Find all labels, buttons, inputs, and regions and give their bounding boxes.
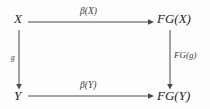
edge-label-top: β(X) — [80, 7, 97, 17]
node-top-left: X — [14, 12, 22, 25]
arrow-left — [16, 30, 22, 90]
edge-label-left: g — [11, 54, 15, 62]
commutative-diagram: X FG(X) Y FG(Y) β(X) g FG(g) β(Y) — [0, 0, 210, 109]
arrow-right — [167, 30, 173, 90]
edge-label-bottom: β(Y) — [80, 81, 96, 91]
node-bottom-right: FG(Y) — [157, 89, 190, 102]
node-bottom-left: Y — [14, 89, 21, 102]
node-top-right: FG(X) — [157, 12, 191, 25]
edge-label-right: FG(g) — [174, 51, 197, 60]
arrow-bottom — [28, 93, 154, 99]
arrow-top — [28, 19, 154, 25]
